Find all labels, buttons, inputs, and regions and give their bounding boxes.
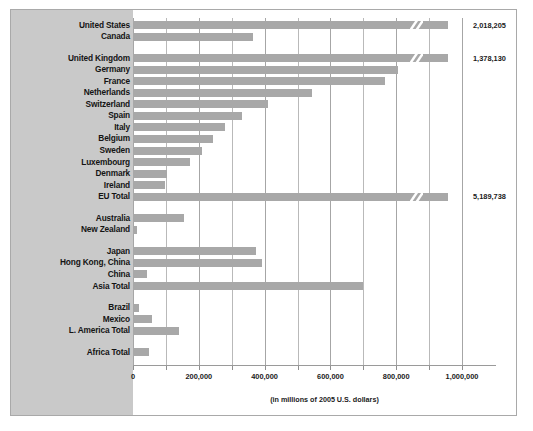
category-label: Canada	[20, 32, 130, 41]
axis-tick-label: 800,000	[383, 372, 410, 381]
category-label: United States	[20, 21, 130, 30]
category-label: Belgium	[20, 134, 130, 143]
bar	[133, 112, 242, 120]
bar-value-label: 1,378,130	[473, 54, 506, 63]
bar	[133, 304, 139, 312]
category-label: Netherlands	[20, 88, 130, 97]
category-label: Mexico	[20, 315, 130, 324]
bar	[133, 259, 262, 267]
axis-tick	[298, 366, 299, 370]
gridline	[429, 18, 430, 365]
bar	[133, 315, 152, 323]
axis-break-icon	[410, 21, 423, 29]
axis-tick	[330, 366, 331, 370]
axis-tick-label: 0	[131, 372, 135, 381]
bar	[133, 158, 190, 166]
category-label: New Zealand	[20, 225, 130, 234]
category-label: Spain	[20, 111, 130, 120]
bar	[133, 214, 184, 222]
category-label: Australia	[20, 214, 130, 223]
axis-tick	[265, 366, 266, 370]
axis-tick	[199, 366, 200, 370]
bar	[133, 66, 398, 74]
category-label: Ireland	[20, 181, 130, 190]
axis-tick-label: 600,000	[317, 372, 344, 381]
plot-area: 0200,000400,000600,000800,0001,000,000	[133, 18, 496, 373]
axis-tick-label: 1,000,000	[446, 372, 479, 381]
category-label: Asia Total	[20, 282, 130, 291]
bar	[133, 89, 312, 97]
category-label: L. America Total	[20, 326, 130, 335]
axis-tick	[396, 366, 397, 370]
bar	[133, 170, 167, 178]
bar	[133, 147, 202, 155]
axis-tick	[166, 366, 167, 370]
axis-tick	[232, 366, 233, 370]
bar	[133, 100, 268, 108]
bar	[133, 193, 448, 201]
category-label: EU Total	[20, 192, 130, 201]
bar	[133, 181, 165, 189]
category-label: Africa Total	[20, 348, 130, 357]
category-label: China	[20, 270, 130, 279]
category-label: Germany	[20, 65, 130, 74]
category-label: United Kingdom	[20, 54, 130, 63]
category-label: Italy	[20, 123, 130, 132]
category-label: Sweden	[20, 146, 130, 155]
axis-break-icon	[410, 54, 423, 62]
category-label: Switzerland	[20, 100, 130, 109]
bar	[133, 54, 448, 62]
category-label: Japan	[20, 247, 130, 256]
axis-tick	[133, 366, 134, 370]
bar	[133, 270, 147, 278]
bar-value-label: 2,018,205	[473, 21, 506, 30]
category-label: France	[20, 77, 130, 86]
plot-wrapper: United StatesCanadaUnited KingdomGermany…	[11, 10, 516, 415]
category-label: Brazil	[20, 303, 130, 312]
axis-caption: (in millions of 2005 U.S. dollars)	[133, 395, 516, 404]
bar	[133, 282, 363, 290]
gridline	[462, 18, 463, 365]
axis-tick	[363, 366, 364, 370]
category-label: Denmark	[20, 169, 130, 178]
bar	[133, 135, 213, 143]
bar	[133, 348, 149, 356]
axis-tick	[462, 366, 463, 370]
bar-value-label: 5,189,738	[473, 192, 506, 201]
axis-tick-label: 400,000	[251, 372, 278, 381]
bar	[133, 327, 179, 335]
bar	[133, 21, 448, 29]
bar	[133, 247, 256, 255]
axis-tick-label: 200,000	[185, 372, 212, 381]
axis-tick	[429, 366, 430, 370]
chart-figure: United StatesCanadaUnited KingdomGermany…	[10, 9, 517, 416]
bar	[133, 77, 385, 85]
bar	[133, 226, 137, 234]
axis-line	[133, 365, 496, 366]
category-label: Hong Kong, China	[20, 258, 130, 267]
bar	[133, 33, 253, 41]
bar	[133, 123, 225, 131]
axis-break-icon	[410, 193, 423, 201]
category-label: Luxembourg	[20, 158, 130, 167]
